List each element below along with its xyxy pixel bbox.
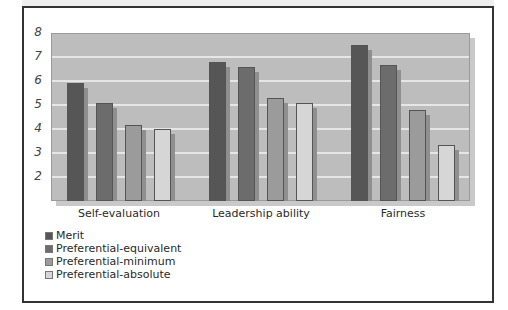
bar-preferential-minimum bbox=[267, 98, 284, 201]
bar-preferential-equivalent bbox=[238, 67, 255, 201]
gridline bbox=[52, 56, 469, 58]
legend-item: Preferential-equivalent bbox=[45, 242, 181, 255]
y-tick-label: 3 bbox=[28, 145, 42, 159]
legend-label: Preferential-equivalent bbox=[56, 242, 181, 255]
legend-label: Preferential-minimum bbox=[56, 255, 176, 268]
bar-preferential-absolute bbox=[296, 103, 313, 201]
bar-merit bbox=[209, 62, 226, 201]
x-category-label: Fairness bbox=[338, 207, 468, 220]
bar-preferential-equivalent bbox=[380, 65, 397, 201]
legend-swatch-icon bbox=[45, 271, 53, 279]
bar-preferential-minimum bbox=[409, 110, 426, 201]
x-category-label: Self-evaluation bbox=[54, 207, 184, 220]
legend-swatch-icon bbox=[45, 258, 53, 266]
x-category-label: Leadership ability bbox=[196, 207, 326, 220]
bar-merit bbox=[67, 83, 84, 201]
gridline bbox=[52, 104, 469, 106]
legend-item: Preferential-minimum bbox=[45, 255, 181, 268]
y-tick-label: 2 bbox=[28, 169, 42, 183]
gridline bbox=[52, 80, 469, 82]
bar-preferential-equivalent bbox=[96, 103, 113, 201]
y-tick-label: 8 bbox=[28, 25, 42, 39]
bar-preferential-absolute bbox=[154, 129, 171, 201]
y-tick-label: 5 bbox=[28, 97, 42, 111]
bar-merit bbox=[351, 45, 368, 201]
legend: MeritPreferential-equivalentPreferential… bbox=[45, 229, 181, 281]
y-tick-label: 6 bbox=[28, 73, 42, 87]
legend-swatch-icon bbox=[45, 245, 53, 253]
legend-swatch-icon bbox=[45, 232, 53, 240]
y-tick-label: 7 bbox=[28, 49, 42, 63]
legend-item: Preferential-absolute bbox=[45, 268, 181, 281]
legend-label: Merit bbox=[56, 229, 84, 242]
legend-label: Preferential-absolute bbox=[56, 268, 171, 281]
legend-item: Merit bbox=[45, 229, 181, 242]
bar-preferential-minimum bbox=[125, 125, 142, 201]
bar-preferential-absolute bbox=[438, 145, 455, 201]
y-tick-label: 4 bbox=[28, 121, 42, 135]
